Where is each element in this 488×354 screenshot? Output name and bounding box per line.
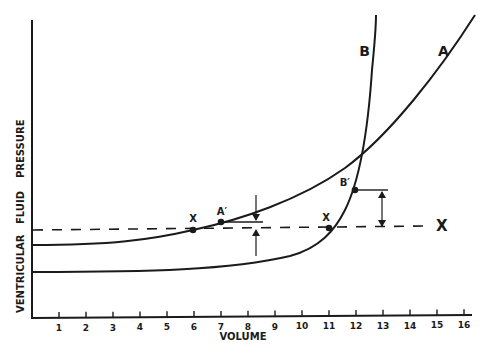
a-prime-arrow-head-down	[252, 214, 260, 221]
x-tick-label: 1	[56, 323, 62, 333]
x-tick-label: 15	[431, 320, 444, 330]
point-a-prime	[218, 219, 225, 226]
x-tick-label: 4	[137, 322, 143, 332]
x-tick-label: 14	[404, 321, 417, 331]
reference-line-x	[33, 226, 430, 230]
b-prime-arrow-head-up	[378, 191, 386, 198]
y-axis-label: VENTRICULAR FLUID PRESSURE	[15, 119, 26, 313]
x-tick-label: 2	[83, 323, 89, 333]
point-a-prime-label: A′	[217, 206, 228, 217]
curve-b-label: B	[359, 43, 370, 59]
pressure-volume-chart: 12345678910111213141516 A B X X A′ X B′ …	[0, 0, 488, 354]
point-x-on-a	[190, 227, 197, 234]
x-tick-label: 10	[296, 321, 309, 331]
curve-a	[33, 15, 475, 245]
x-tick-label: 6	[191, 322, 197, 332]
y-axis-label-pressure: PRESSURE	[15, 119, 26, 178]
x-tick-label: 5	[164, 322, 170, 332]
x-tick-label: 3	[110, 323, 116, 333]
x-tick-label: 12	[350, 321, 363, 331]
curve-b	[33, 15, 376, 272]
y-axis-label-ventricular: VENTRICULAR	[15, 234, 26, 313]
y-axis-label-fluid: FLUID	[15, 191, 26, 224]
x-tick-label: 9	[272, 322, 278, 332]
x-tick-label: 11	[323, 321, 336, 331]
point-x2-label: X	[322, 212, 330, 223]
line-x-label: X	[436, 217, 448, 235]
point-b-prime	[352, 187, 359, 194]
point-x1-label: X	[189, 213, 197, 224]
x-tick-label: 16	[458, 320, 471, 330]
x-axis-label: VOLUME	[220, 331, 267, 342]
point-b-prime-label: B′	[340, 177, 351, 188]
x-tick-label: 13	[377, 321, 390, 331]
point-x-on-b	[326, 225, 333, 232]
curve-a-label: A	[438, 43, 449, 59]
x-axis	[31, 315, 472, 318]
a-prime-arrow-head-up	[252, 229, 260, 236]
